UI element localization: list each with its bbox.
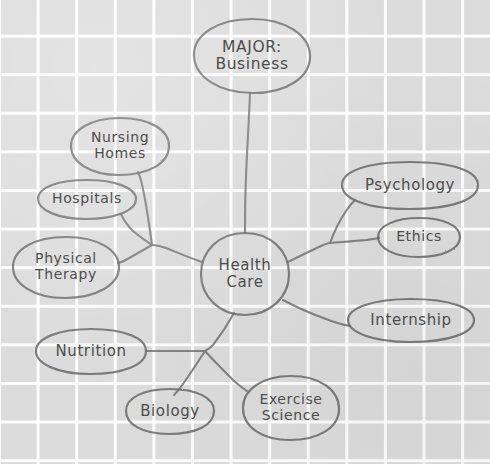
connector-health-care-to-right-hub xyxy=(288,243,330,262)
node-outline-biology[interactable] xyxy=(126,389,214,434)
connector-left-hub-to-nursing-homes xyxy=(138,172,152,245)
connector-bottom-hub-to-exercise-science xyxy=(205,351,247,391)
mind-map-drawing xyxy=(0,0,490,464)
connector-health-care-to-left-hub xyxy=(152,245,202,262)
node-outline-hospitals[interactable] xyxy=(38,180,136,219)
node-outline-health-care[interactable] xyxy=(201,233,289,315)
node-outline-major[interactable] xyxy=(194,19,310,93)
connector-left-hub-to-physical-therapy xyxy=(118,245,152,263)
node-outline-physical-therapy[interactable] xyxy=(13,237,119,298)
connector-major-to-health-care xyxy=(245,93,250,233)
node-outline-nursing-homes[interactable] xyxy=(71,118,169,175)
node-outline-psychology[interactable] xyxy=(342,162,478,209)
node-outline-nutrition[interactable] xyxy=(36,329,146,374)
mind-map-canvas: MAJOR: Business Nursing Homes Hospitals … xyxy=(0,0,490,464)
node-outline-internship[interactable] xyxy=(348,299,474,342)
connector-health-care-to-bottom-hub xyxy=(205,313,234,351)
connector-right-hub-to-ethics xyxy=(330,238,379,243)
connector-health-care-to-internship xyxy=(283,300,350,326)
node-outline-ethics[interactable] xyxy=(378,218,460,257)
node-outline-exercise-science[interactable] xyxy=(243,376,339,440)
connector-right-hub-to-psychology xyxy=(330,200,355,243)
